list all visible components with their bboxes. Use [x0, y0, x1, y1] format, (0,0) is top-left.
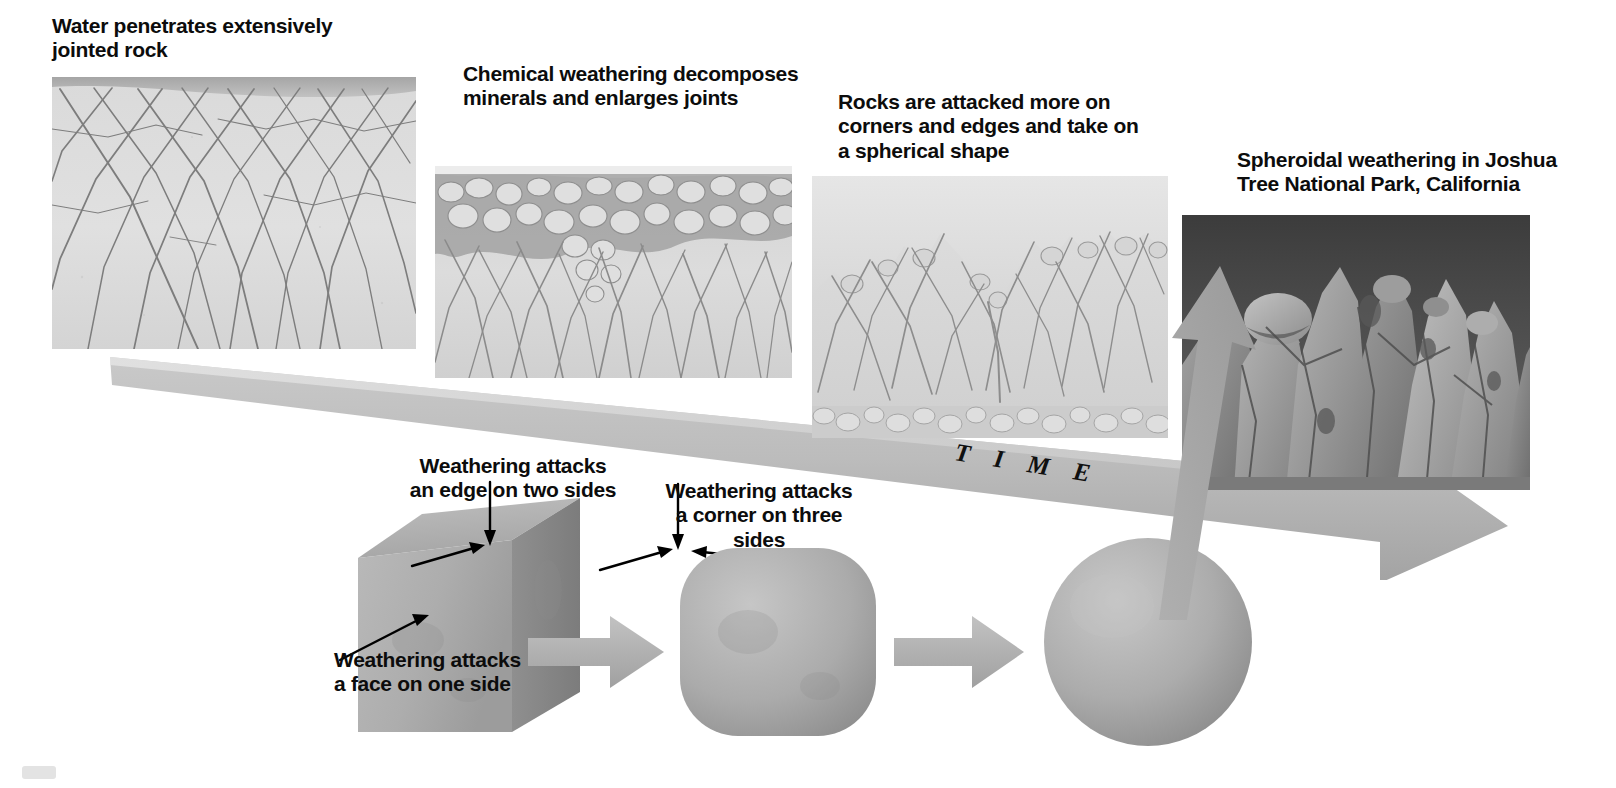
stage-3-caption: Rocks are attacked more on corners and e…: [838, 90, 1139, 163]
face-annotation-label: Weathering attacks a face on one side: [334, 648, 521, 697]
transition-arrow-2: [894, 616, 1024, 688]
stage-4-caption: Spheroidal weathering in Joshua Tree Nat…: [1237, 148, 1557, 197]
stage-2-caption: Chemical weathering decomposes minerals …: [463, 62, 798, 111]
rounded-cube-shape: [680, 548, 876, 736]
stage-1-illustration: [52, 77, 416, 349]
sphere-to-photo-pointer-arrow: [980, 170, 1320, 620]
figure-canvas: T I M E Water penetrates extensively joi…: [0, 0, 1616, 788]
edge-annotation-label: Weathering attacks an edge on two sides: [408, 454, 618, 503]
page-marker: [22, 766, 56, 779]
shape-transformation-sequence: [300, 470, 1616, 788]
cube-shape: [358, 498, 580, 732]
stage-2-illustration: [435, 166, 792, 378]
corner-annotation-label: Weathering attacks a corner on three sid…: [650, 479, 868, 552]
stage-1-caption: Water penetrates extensively jointed roc…: [52, 14, 332, 63]
